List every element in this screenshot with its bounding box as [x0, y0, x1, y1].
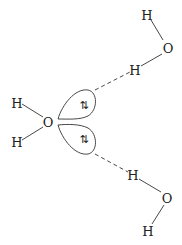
top-hydrogen-bonded-atom: H: [129, 63, 140, 78]
bottom-hydrogen-outer-atom: H: [142, 224, 153, 239]
bond-bottom-oh-bonded: [139, 179, 161, 192]
top-oxygen-atom: O: [163, 41, 174, 56]
electron-pair-upper-icon: ⇅: [79, 99, 88, 112]
top-hydrogen-outer-atom: H: [141, 8, 152, 23]
lone-pair-lobe-lower: [58, 124, 96, 154]
hydrogen-bond-lower: [95, 154, 128, 172]
central-hydrogen-atom-lower: H: [11, 135, 22, 150]
hydrogen-bond-diagram: O H H ⇅ ⇅ H O H H O H: [0, 0, 182, 245]
electron-pair-lower-icon: ⇅: [79, 133, 88, 146]
bond-top-oh-outer: [151, 20, 163, 40]
bond-central-h1: [22, 104, 43, 117]
central-oxygen-atom: O: [43, 115, 54, 130]
bottom-hydrogen-bonded-atom: H: [127, 168, 138, 183]
bond-bottom-oh-outer: [152, 205, 164, 224]
bond-top-oh-bonded: [141, 54, 162, 66]
hydrogen-bond-upper: [95, 72, 130, 90]
central-hydrogen-atom-upper: H: [11, 96, 22, 111]
bottom-oxygen-atom: O: [162, 191, 173, 206]
bond-central-h2: [22, 127, 43, 140]
lone-pair-lobe-upper: [58, 90, 96, 119]
